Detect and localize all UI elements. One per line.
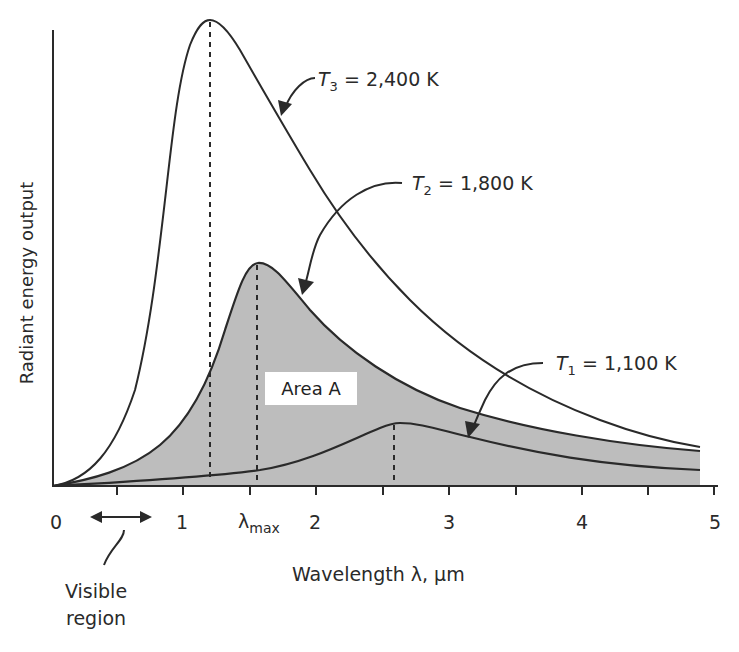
lambda-symbol: λ (238, 510, 249, 532)
lambda-subscript: max (249, 520, 280, 536)
area-a-label: Area A (265, 372, 357, 405)
t1-label: T1 = 1,100 K (556, 352, 677, 378)
t1-value: = 1,100 K (576, 352, 677, 374)
lambda-max-label: λmax (238, 510, 280, 536)
t2-label: T2 = 1,800 K (412, 172, 533, 198)
x-tick-label-1: 1 (176, 511, 188, 533)
t2-symbol: T (412, 172, 424, 194)
x-tick-label-5: 5 (709, 511, 721, 533)
x-ticks (117, 486, 714, 495)
visible-region-label: Visible region (65, 578, 127, 632)
t2-arrowhead (298, 278, 314, 295)
x-tick-label-3: 3 (443, 511, 455, 533)
t3-arrowhead (278, 100, 292, 116)
t3-symbol: T (318, 68, 330, 90)
t1-subscript: 1 (568, 363, 576, 378)
visible-pointer (104, 530, 124, 565)
x-tick-label-2: 2 (309, 511, 321, 533)
chart-canvas (0, 0, 739, 652)
t3-subscript: 3 (330, 79, 338, 94)
visible-line-2: region (65, 605, 127, 632)
visible-line-1: Visible (65, 578, 127, 605)
t2-subscript: 2 (424, 183, 432, 198)
x-tick-label-0: 0 (50, 511, 62, 533)
t3-value: = 2,400 K (338, 68, 439, 90)
x-axis-label: Wavelength λ, μm (292, 563, 465, 585)
t2-value: = 1,800 K (432, 172, 533, 194)
x-tick-label-4: 4 (576, 511, 588, 533)
t3-label: T3 = 2,400 K (318, 68, 439, 94)
t1-symbol: T (556, 352, 568, 374)
y-axis-label: Radiant energy output (16, 182, 37, 385)
visible-arrowhead-right (140, 511, 152, 523)
visible-arrowhead-left (90, 511, 102, 523)
